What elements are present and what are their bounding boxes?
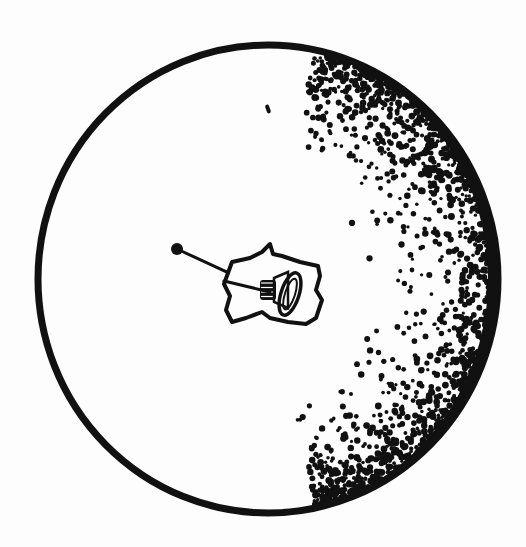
pin-head [171,243,183,255]
illustration-canvas [0,0,526,547]
stray-mark [265,104,272,114]
central-object [171,243,322,324]
stipple-shading [296,53,499,508]
sphere-illustration [0,0,526,547]
